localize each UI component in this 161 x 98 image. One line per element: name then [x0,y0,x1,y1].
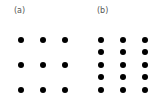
dot [40,37,46,43]
dot [40,62,46,68]
dot [142,37,148,43]
dot [62,37,68,43]
dot [98,62,104,68]
dot [120,87,126,93]
dot [120,74,126,80]
dot [142,62,148,68]
dot [98,74,104,80]
dot [18,87,24,93]
dot [98,49,104,55]
dot [142,87,148,93]
dot [62,87,68,93]
panel-a-label: (a) [14,7,25,15]
dot [18,37,24,43]
panel-b-label: (b) [97,7,108,15]
dot [142,74,148,80]
dot [98,87,104,93]
dot [120,62,126,68]
dot [18,62,24,68]
dot [142,49,148,55]
dot [62,62,68,68]
dot [40,87,46,93]
dot [98,37,104,43]
dot [120,49,126,55]
dot [120,37,126,43]
